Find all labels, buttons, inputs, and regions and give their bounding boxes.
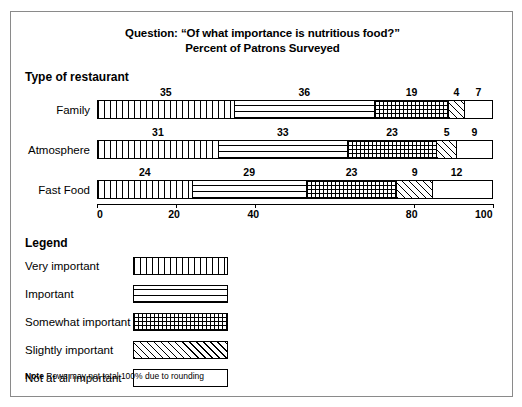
bar-segment: 19 <box>375 101 449 118</box>
x-axis: 0204080100 <box>97 204 493 226</box>
bar-segment: 24 <box>98 181 193 198</box>
legend-item-label: Important <box>25 288 74 300</box>
stacked-bar: 35361947 <box>97 100 493 119</box>
bar-segment: 29 <box>193 181 307 198</box>
legend-swatch <box>133 313 228 331</box>
bar-segment-value: 4 <box>449 86 464 98</box>
bar-segment: 7 <box>465 101 492 118</box>
bar-segment: 5 <box>437 141 457 158</box>
axis-tick <box>493 204 494 208</box>
bar-segment: 31 <box>98 141 219 158</box>
bar-segment-value: 36 <box>235 86 374 98</box>
bar-segment-value: 24 <box>98 166 192 178</box>
bar-segment-value: 5 <box>437 126 456 138</box>
bar-segment-value: 9 <box>397 166 431 178</box>
legend-item: Slightly important <box>25 339 505 367</box>
bar-segment-value: 9 <box>457 126 492 138</box>
bar-segment-value: 35 <box>98 86 234 98</box>
stacked-bar: 31332359 <box>97 140 493 159</box>
bar-segment: 4 <box>449 101 465 118</box>
legend-item: Very important <box>25 255 505 283</box>
legend-swatch <box>133 257 228 275</box>
legend-item: Somewhat important <box>25 311 505 339</box>
axis-line <box>97 204 493 205</box>
axis-tick-label: 100 <box>475 208 493 220</box>
bar-segment-value: 12 <box>433 166 480 178</box>
legend-item-label: Slightly important <box>25 344 113 356</box>
bar-segment-value: 7 <box>465 86 492 98</box>
bar-segment: 36 <box>235 101 375 118</box>
axis-tick-label: 80 <box>406 208 418 220</box>
footnote: Note Rows may not total 100% due to roun… <box>25 371 204 381</box>
bar-row: Fast Food242923912 <box>11 164 514 204</box>
bar-row-label: Fast Food <box>11 184 90 196</box>
legend-item-label: Somewhat important <box>25 316 130 328</box>
bar-segment: 12 <box>433 181 480 198</box>
bar-row: Family35361947 <box>11 84 514 124</box>
chart-frame: Question: “Of what importance is nutriti… <box>10 11 513 397</box>
bar-row-label: Family <box>11 104 90 116</box>
bar-segment: 9 <box>397 181 432 198</box>
bar-row: Atmosphere31332359 <box>11 124 514 164</box>
bar-segment: 9 <box>457 141 492 158</box>
legend-swatch <box>133 285 228 303</box>
footnote-text: Rows may not total 100% due to rounding <box>44 371 204 381</box>
legend-heading: Legend <box>25 236 68 250</box>
bar-row-label: Atmosphere <box>11 144 90 156</box>
bar-segment-value: 23 <box>348 126 437 138</box>
bar-segment: 23 <box>348 141 438 158</box>
legend-item-label: Very important <box>25 260 99 272</box>
legend-swatch <box>133 341 228 359</box>
bar-segment: 35 <box>98 101 235 118</box>
axis-tick-label: 40 <box>247 208 259 220</box>
bar-segment-value: 19 <box>375 86 448 98</box>
bar-segment-value: 31 <box>98 126 218 138</box>
bar-segment-value: 23 <box>307 166 397 178</box>
bar-segment-value: 29 <box>193 166 306 178</box>
footnote-label: Note <box>25 371 44 381</box>
stacked-bar: 242923912 <box>97 180 493 199</box>
bar-segment: 23 <box>307 181 398 198</box>
axis-tick-label: 20 <box>168 208 180 220</box>
axis-tick-label: 0 <box>97 208 103 220</box>
bar-segment: 33 <box>219 141 348 158</box>
bar-segment-value: 33 <box>219 126 347 138</box>
legend-item: Important <box>25 283 505 311</box>
